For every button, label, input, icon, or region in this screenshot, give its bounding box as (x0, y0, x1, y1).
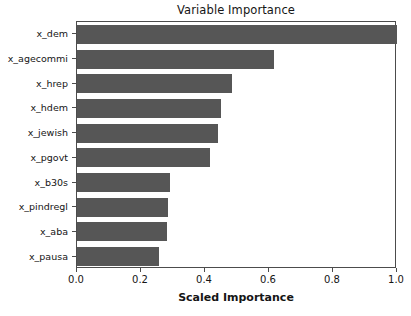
bar-fill (77, 25, 397, 44)
plot-area (76, 21, 396, 268)
y-axis: x_demx_agecommix_hrepx_hdemx_jewishx_pgo… (0, 21, 76, 268)
x-tick-label-0.4: 0.4 (196, 274, 212, 285)
x-tick-mark (76, 268, 77, 272)
x-tick-mark (332, 268, 333, 272)
bars-layer (77, 22, 395, 267)
bar-fill (77, 247, 159, 266)
bar-fill (77, 74, 232, 93)
y-tick-label-x_hrep: x_hrep (36, 77, 68, 88)
x-tick-mark (396, 268, 397, 272)
y-tick-label-x_hdem: x_hdem (30, 102, 68, 113)
bar-fill (77, 222, 167, 241)
x-tick-label-1.0: 1.0 (388, 274, 404, 285)
y-tick-label-x_dem: x_dem (36, 28, 68, 39)
y-tick-label-x_pindregl: x_pindregl (19, 201, 68, 212)
bar-x_jewish (77, 124, 397, 143)
x-tick-label-0.6: 0.6 (260, 274, 276, 285)
bar-fill (77, 50, 274, 69)
bar-x_pindregl (77, 198, 397, 217)
x-axis-title: Scaled Importance (76, 291, 396, 304)
y-tick-label-x_agecommi: x_agecommi (8, 53, 68, 64)
y-tick-label-x_pgovt: x_pgovt (30, 151, 68, 162)
y-tick-label-x_b30s: x_b30s (35, 176, 68, 187)
bar-fill (77, 148, 210, 167)
y-tick-label-x_aba: x_aba (40, 225, 68, 236)
chart-title: Variable Importance (76, 3, 396, 17)
bar-x_pgovt (77, 148, 397, 167)
bar-fill (77, 173, 170, 192)
bar-x_hrep (77, 74, 397, 93)
x-tick-mark (140, 268, 141, 272)
chart-figure: Variable Importance x_demx_agecommix_hre… (0, 0, 411, 316)
bar-fill (77, 99, 221, 118)
bar-x_b30s (77, 173, 397, 192)
x-tick-label-0.8: 0.8 (324, 274, 340, 285)
x-tick-mark (204, 268, 205, 272)
x-tick-mark (268, 268, 269, 272)
bar-x_agecommi (77, 50, 397, 69)
y-tick-label-x_pausa: x_pausa (29, 250, 68, 261)
bar-fill (77, 124, 218, 143)
bar-x_aba (77, 222, 397, 241)
x-tick-label-0.0: 0.0 (68, 274, 84, 285)
bar-x_hdem (77, 99, 397, 118)
x-tick-label-0.2: 0.2 (132, 274, 148, 285)
y-tick-label-x_jewish: x_jewish (28, 127, 68, 138)
bar-fill (77, 198, 168, 217)
bar-x_pausa (77, 247, 397, 266)
bar-x_dem (77, 25, 397, 44)
